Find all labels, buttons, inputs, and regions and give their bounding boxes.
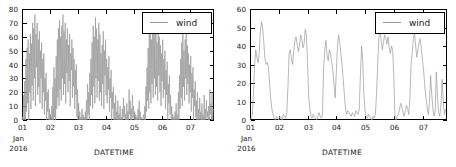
chart-panel-left: 0102030405060708001020304050607Jan2016wi… xyxy=(0,0,228,167)
x-tick-label: 03 xyxy=(304,123,313,132)
chart-right-canvas: 010203040506001020304050607Jan2016wind xyxy=(228,0,456,167)
y-tick-label: 40 xyxy=(237,42,247,51)
legend-right: wind xyxy=(376,13,445,34)
x-tick-label: 05 xyxy=(361,123,370,132)
x-tick-label: 02 xyxy=(46,123,55,132)
legend-left: wind xyxy=(143,13,212,34)
y-tick-label: 10 xyxy=(237,98,247,107)
y-tick-label: 30 xyxy=(237,61,247,70)
y-tick-label: 70 xyxy=(9,19,19,28)
x-tick-label: 03 xyxy=(74,123,83,132)
x-tick-label: 05 xyxy=(130,123,139,132)
y-tick-label: 20 xyxy=(9,88,19,97)
y-tick-label: 50 xyxy=(237,24,247,33)
y-tick-label: 50 xyxy=(9,47,19,56)
legend-label-text: wind xyxy=(176,18,197,28)
y-tick-label: 80 xyxy=(9,5,19,14)
x-axis-title-right: DATETIME xyxy=(228,148,456,157)
y-tick-label: 40 xyxy=(9,61,19,70)
y-tick-label: 10 xyxy=(9,102,19,111)
legend-label-text: wind xyxy=(409,18,430,28)
x-tick-label: 02 xyxy=(275,123,284,132)
x-tick-label: 01 xyxy=(246,123,255,132)
x-tick-label: 06 xyxy=(158,123,168,132)
x-tick-label: 04 xyxy=(332,123,342,132)
y-tick-label: 20 xyxy=(237,79,247,88)
figure-wind-comparison: 0102030405060708001020304050607Jan2016wi… xyxy=(0,0,456,167)
x-tick-sublabel: Jan xyxy=(12,134,24,143)
y-tick-label: 30 xyxy=(9,74,19,83)
x-tick-label: 07 xyxy=(419,123,428,132)
chart-left-canvas: 0102030405060708001020304050607Jan2016wi… xyxy=(0,0,228,167)
x-tick-label: 06 xyxy=(390,123,400,132)
chart-panel-right: 010203040506001020304050607Jan2016wind D… xyxy=(228,0,456,167)
x-tick-sublabel: Jan xyxy=(240,134,252,143)
y-tick-label: 60 xyxy=(9,33,19,42)
x-tick-label: 07 xyxy=(186,123,195,132)
y-tick-label: 60 xyxy=(237,5,247,14)
x-axis-title-left: DATETIME xyxy=(0,148,228,157)
x-tick-label: 04 xyxy=(102,123,112,132)
x-tick-label: 01 xyxy=(18,123,27,132)
